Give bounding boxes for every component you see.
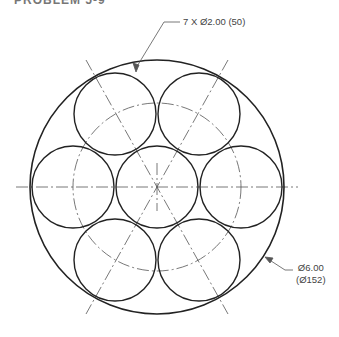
outer-diameter-mm: (Ø152) (296, 274, 326, 286)
leader-outer-diameter (265, 257, 293, 270)
technical-drawing (0, 0, 339, 337)
leader-small-circles (133, 22, 180, 72)
small-circles-callout: 7 X Ø2.00 (50) (183, 16, 245, 28)
outer-diameter-inches: Ø6.00 (296, 262, 326, 274)
outer-diameter-callout: Ø6.00 (Ø152) (296, 262, 326, 286)
centerlines (16, 60, 298, 314)
small-circle-top-right (158, 73, 240, 155)
